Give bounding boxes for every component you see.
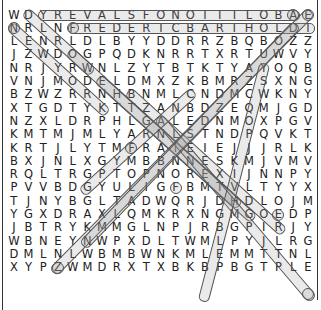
grid-cell[interactable]: X (124, 261, 139, 274)
grid-cell[interactable]: D (95, 261, 110, 274)
grid-cell[interactable]: J (36, 75, 51, 88)
grid-cell[interactable]: L (212, 235, 227, 248)
grid-cell[interactable]: E (301, 9, 316, 22)
grid-cell[interactable]: Z (286, 35, 301, 48)
grid-cell[interactable]: M (227, 208, 242, 221)
grid-cell[interactable]: L (65, 248, 80, 261)
grid-cell[interactable]: R (21, 22, 36, 35)
grid-cell[interactable]: N (168, 9, 183, 22)
grid-cell[interactable]: D (286, 208, 301, 221)
grid-cell[interactable]: E (21, 35, 36, 48)
grid-cell[interactable]: D (198, 115, 213, 128)
grid-cell[interactable]: T (256, 261, 271, 274)
grid-cell[interactable]: V (7, 75, 22, 88)
grid-cell[interactable]: B (124, 248, 139, 261)
grid-cell[interactable]: M (242, 155, 257, 168)
grid-cell[interactable]: Y (65, 221, 80, 234)
grid-cell[interactable]: R (80, 115, 95, 128)
grid-cell[interactable]: X (36, 208, 51, 221)
grid-cell[interactable]: H (242, 22, 257, 35)
grid-cell[interactable]: N (95, 88, 110, 101)
grid-cell[interactable]: N (212, 115, 227, 128)
grid-cell[interactable]: G (139, 115, 154, 128)
grid-cell[interactable]: N (154, 168, 169, 181)
grid-cell[interactable]: R (183, 168, 198, 181)
grid-cell[interactable]: L (154, 235, 169, 248)
grid-cell[interactable]: R (65, 208, 80, 221)
grid-cell[interactable]: D (198, 102, 213, 115)
grid-cell[interactable]: I (154, 22, 169, 35)
grid-cell[interactable]: M (256, 102, 271, 115)
grid-cell[interactable]: Z (212, 102, 227, 115)
grid-cell[interactable]: Y (139, 35, 154, 48)
grid-cell[interactable]: B (21, 221, 36, 234)
grid-cell[interactable]: D (65, 115, 80, 128)
grid-cell[interactable]: R (168, 48, 183, 61)
grid-cell[interactable]: D (301, 102, 316, 115)
grid-cell[interactable]: P (7, 181, 22, 194)
grid-cell[interactable]: K (301, 142, 316, 155)
grid-cell[interactable]: X (21, 155, 36, 168)
grid-cell[interactable]: B (95, 248, 110, 261)
grid-cell[interactable]: X (301, 181, 316, 194)
grid-cell[interactable]: O (256, 9, 271, 22)
grid-cell[interactable]: C (168, 22, 183, 35)
grid-cell[interactable]: B (7, 155, 22, 168)
grid-cell[interactable]: R (168, 208, 183, 221)
grid-cell[interactable]: Z (51, 261, 66, 274)
grid-cell[interactable]: L (168, 128, 183, 141)
grid-cell[interactable]: A (124, 195, 139, 208)
grid-cell[interactable]: P (109, 235, 124, 248)
grid-cell[interactable]: D (124, 75, 139, 88)
grid-cell[interactable]: W (80, 62, 95, 75)
grid-cell[interactable]: L (168, 88, 183, 101)
grid-cell[interactable]: O (124, 168, 139, 181)
grid-cell[interactable]: J (256, 155, 271, 168)
grid-cell[interactable]: B (183, 22, 198, 35)
grid-cell[interactable]: N (168, 155, 183, 168)
grid-cell[interactable]: U (256, 48, 271, 61)
grid-cell[interactable]: G (286, 102, 301, 115)
grid-cell[interactable]: W (36, 48, 51, 61)
grid-cell[interactable]: R (227, 48, 242, 61)
grid-cell[interactable]: B (212, 221, 227, 234)
grid-cell[interactable]: X (7, 102, 22, 115)
grid-cell[interactable]: N (154, 48, 169, 61)
grid-cell[interactable]: D (227, 128, 242, 141)
grid-cell[interactable]: Y (7, 208, 22, 221)
grid-cell[interactable]: R (65, 88, 80, 101)
grid-cell[interactable]: P (242, 128, 257, 141)
grid-cell[interactable]: R (51, 35, 66, 48)
grid-cell[interactable]: L (271, 22, 286, 35)
grid-cell[interactable]: L (124, 181, 139, 194)
grid-cell[interactable]: B (139, 155, 154, 168)
grid-cell[interactable]: R (21, 142, 36, 155)
grid-cell[interactable]: T (154, 62, 169, 75)
grid-cell[interactable]: A (95, 9, 110, 22)
grid-cell[interactable]: U (109, 181, 124, 194)
grid-cell[interactable]: Y (227, 62, 242, 75)
grid-cell[interactable]: M (242, 248, 257, 261)
grid-cell[interactable]: T (51, 168, 66, 181)
grid-cell[interactable]: J (227, 142, 242, 155)
grid-cell[interactable]: D (286, 22, 301, 35)
grid-cell[interactable]: W (36, 88, 51, 101)
grid-cell[interactable]: Y (301, 88, 316, 101)
grid-cell[interactable]: K (7, 142, 22, 155)
grid-cell[interactable]: B (124, 88, 139, 101)
grid-cell[interactable]: T (139, 261, 154, 274)
grid-cell[interactable]: O (271, 62, 286, 75)
grid-cell[interactable]: N (51, 22, 66, 35)
grid-cell[interactable]: O (65, 48, 80, 61)
grid-cell[interactable]: T (212, 181, 227, 194)
grid-cell[interactable]: Q (109, 48, 124, 61)
grid-cell[interactable]: N (256, 168, 271, 181)
grid-cell[interactable]: A (286, 9, 301, 22)
grid-cell[interactable]: P (242, 221, 257, 234)
grid-cell[interactable]: Z (21, 88, 36, 101)
grid-cell[interactable]: N (21, 75, 36, 88)
grid-cell[interactable]: J (198, 195, 213, 208)
grid-cell[interactable]: C (183, 88, 198, 101)
grid-cell[interactable]: A (198, 22, 213, 35)
grid-cell[interactable]: Q (242, 35, 257, 48)
